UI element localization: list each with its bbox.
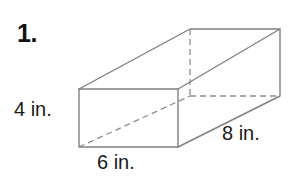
width-dimension-label: 6 in. xyxy=(97,152,135,172)
front-face-outline xyxy=(79,89,178,147)
rectangular-prism-drawing xyxy=(0,0,302,183)
figure-container: 1. 4 in. 6 in. 8 in. xyxy=(0,0,302,183)
hidden-edge-bottom-left-receding xyxy=(79,96,190,147)
top-face-outline xyxy=(79,29,280,89)
problem-number-label: 1. xyxy=(17,21,37,46)
depth-dimension-label: 8 in. xyxy=(222,123,260,143)
height-dimension-label: 4 in. xyxy=(14,99,52,119)
